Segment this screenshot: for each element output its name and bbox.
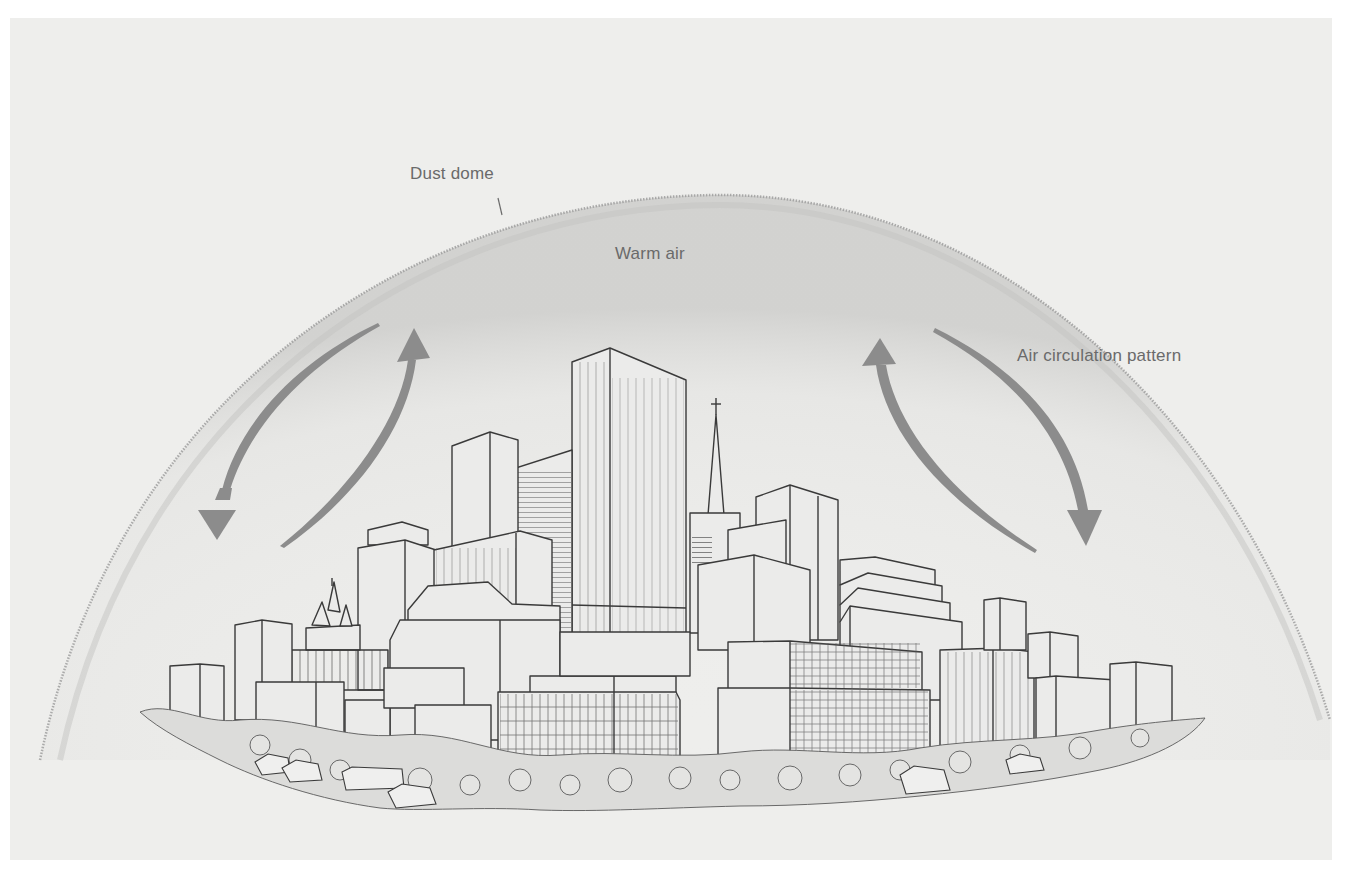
air-circulation-label: Air circulation pattern (1017, 346, 1181, 366)
warm-air-label: Warm air (615, 244, 685, 264)
dust-dome-leader-line (498, 198, 502, 215)
dust-dome-label: Dust dome (410, 164, 494, 184)
urban-dust-dome-illustration (0, 0, 1358, 880)
tower-tall-center (572, 348, 686, 640)
